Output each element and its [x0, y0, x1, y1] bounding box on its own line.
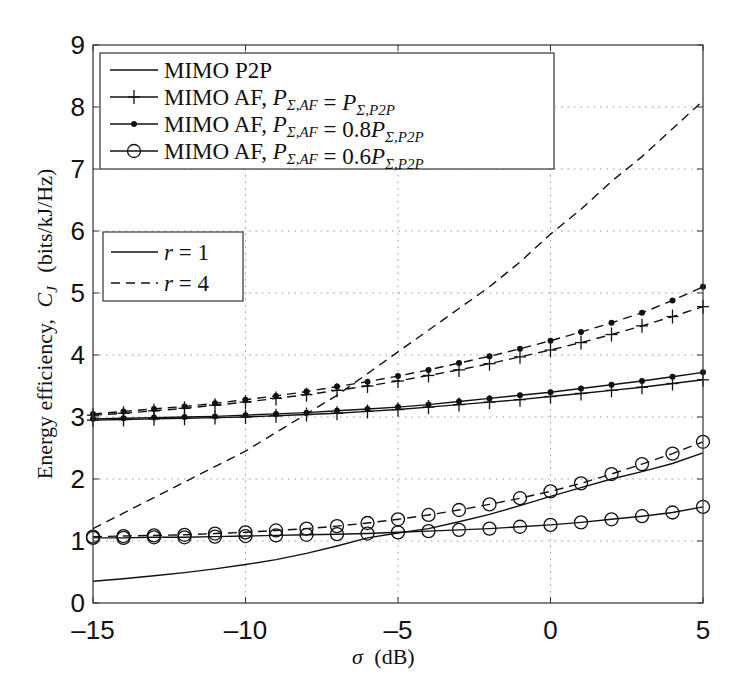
legend-r: r = 1r = 4 — [103, 232, 243, 301]
svg-text:r = 4: r = 4 — [164, 271, 209, 296]
y-tick-label: 0 — [71, 588, 85, 618]
y-tick-label: 5 — [71, 278, 85, 308]
y-tick-label: 2 — [71, 464, 85, 494]
y-tick-label: 7 — [71, 154, 85, 184]
legend-scheme: MIMO P2PMIMO AF, PΣ,AF = PΣ,P2PMIMO AF, … — [100, 53, 554, 172]
x-axis-label: σ (dB) — [352, 644, 415, 669]
y-tick-label: 1 — [71, 526, 85, 556]
x-tick-label: 0 — [543, 615, 557, 645]
svg-text:r = 1: r = 1 — [164, 240, 209, 265]
x-tick-label: 5 — [696, 615, 710, 645]
x-tick-label: –5 — [384, 615, 413, 645]
energy-efficiency-chart: –15–10–5050123456789 σ (dB) Energy effic… — [0, 0, 743, 699]
x-tick-label: –15 — [71, 615, 114, 645]
y-tick-label: 4 — [71, 340, 85, 370]
x-tick-label: –10 — [224, 615, 267, 645]
svg-text:MIMO P2P: MIMO P2P — [164, 58, 272, 83]
y-tick-label: 9 — [71, 30, 85, 60]
y-tick-label: 8 — [71, 92, 85, 122]
y-tick-label: 6 — [71, 216, 85, 246]
y-tick-label: 3 — [71, 402, 85, 432]
